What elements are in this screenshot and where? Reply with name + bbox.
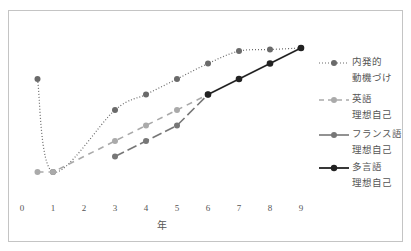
x-tick-label: 6	[206, 203, 211, 213]
legend-label-line2: 動機づけ	[352, 70, 392, 86]
x-tick-label: 7	[237, 203, 242, 213]
x-tick-label: 3	[113, 203, 118, 213]
data-point	[35, 169, 41, 175]
legend-label-line1: 英語	[352, 91, 392, 107]
long-dash-line-marker-icon	[318, 128, 350, 142]
data-point	[112, 138, 118, 144]
legend-label-line2: 理想自己	[352, 142, 402, 158]
data-point	[143, 123, 149, 129]
series-line-2	[115, 95, 208, 157]
data-point	[205, 61, 211, 67]
x-axis-label: 年	[157, 217, 167, 232]
series-line-0	[38, 48, 302, 172]
data-point	[112, 154, 118, 160]
data-point	[50, 169, 56, 175]
series-line-3	[208, 48, 301, 95]
legend-item-french-ideal-self: フランス語 理想自己	[318, 126, 408, 158]
x-tick-label: 8	[268, 203, 273, 213]
x-tick-label: 5	[175, 203, 180, 213]
legend-label-line2: 理想自己	[352, 107, 392, 123]
data-point	[174, 123, 180, 129]
legend-label-line1: 多言語	[352, 159, 392, 175]
data-point	[174, 107, 180, 113]
series-line-1	[38, 95, 209, 173]
data-point	[143, 92, 149, 98]
solid-line-marker-icon	[318, 161, 350, 175]
x-tick-label: 0	[20, 203, 25, 213]
x-tick-label: 2	[82, 203, 87, 213]
legend-label-line1: 内発的	[352, 54, 392, 70]
data-point	[236, 76, 243, 83]
dashed-line-marker-icon	[318, 93, 350, 107]
x-tick-label: 1	[51, 203, 56, 213]
data-point	[143, 138, 149, 144]
legend-item-multilingual-ideal-self: 多言語 理想自己	[318, 159, 408, 191]
legend-item-intrinsic-motivation: 内発的 動機づけ	[318, 54, 408, 86]
x-tick-label: 4	[144, 203, 149, 213]
data-point	[112, 107, 118, 113]
legend-item-english-ideal-self: 英語 理想自己	[318, 91, 408, 123]
data-point	[236, 48, 242, 54]
data-point	[35, 76, 41, 82]
data-point	[267, 47, 273, 53]
data-point	[298, 45, 305, 52]
legend-label-line2: 理想自己	[352, 175, 392, 191]
data-point	[267, 60, 274, 67]
data-point	[174, 76, 180, 82]
data-point	[205, 91, 212, 98]
legend-label-line1: フランス語	[352, 126, 402, 142]
dotted-line-marker-icon	[318, 56, 350, 70]
x-tick-label: 9	[299, 203, 304, 213]
